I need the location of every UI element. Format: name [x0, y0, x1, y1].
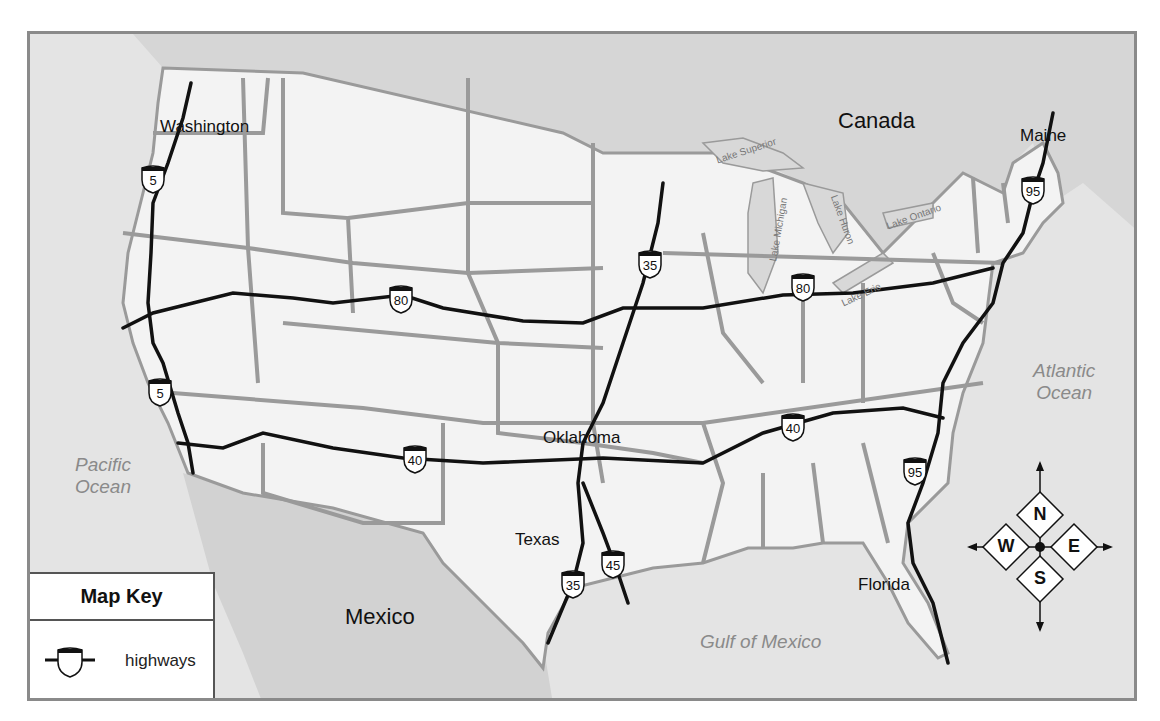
compass-north: N: [1030, 504, 1050, 525]
compass-east: E: [1064, 536, 1084, 557]
interstate-shield-icon: [45, 646, 95, 680]
compass-west: W: [996, 536, 1016, 557]
compass-south: S: [1030, 568, 1050, 589]
shield-number: 40: [402, 453, 428, 468]
map-key-label: highways: [125, 651, 196, 671]
interstate-80-shield-west: 80: [388, 284, 414, 314]
pacific-line2: Ocean: [75, 476, 131, 498]
interstate-95-shield-south: 95: [902, 456, 928, 486]
compass-rose: N S W E: [965, 459, 1115, 634]
state-label-washington: Washington: [160, 117, 249, 137]
atlantic-line1: Atlantic: [1033, 360, 1095, 382]
interstate-45-shield: 45: [600, 549, 626, 579]
interstate-40-shield-east: 40: [780, 412, 806, 442]
interstate-5-shield-south: 5: [147, 377, 173, 407]
shield-number: 5: [140, 173, 166, 188]
shield-number: 80: [790, 281, 816, 296]
state-label-oklahoma: Oklahoma: [543, 428, 620, 448]
state-label-maine: Maine: [1020, 126, 1066, 146]
map-key-item-highways: highways: [30, 621, 213, 701]
compass-icon: [965, 459, 1115, 634]
interstate-40-shield-west: 40: [402, 444, 428, 474]
us-highway-map: Canada Mexico Washington Maine Oklahoma …: [27, 31, 1137, 701]
shield-number: 40: [780, 421, 806, 436]
shield-number: 5: [147, 386, 173, 401]
shield-number: 35: [560, 578, 586, 593]
water-label-pacific: Pacific Ocean: [75, 454, 131, 498]
country-label-mexico: Mexico: [345, 604, 415, 630]
state-label-florida: Florida: [858, 575, 910, 595]
interstate-5-shield-north: 5: [140, 164, 166, 194]
map-key-title: Map Key: [30, 574, 213, 621]
country-label-canada: Canada: [838, 108, 915, 134]
shield-number: 95: [902, 465, 928, 480]
shield-number: 95: [1020, 184, 1046, 199]
pacific-line1: Pacific: [75, 454, 131, 476]
water-label-gulf-of-mexico: Gulf of Mexico: [700, 631, 821, 653]
shield-number: 80: [388, 293, 414, 308]
interstate-35-shield-north: 35: [637, 249, 663, 279]
shield-number: 35: [637, 258, 663, 273]
map-key: Map Key highways: [30, 572, 215, 701]
shield-number: 45: [600, 558, 626, 573]
atlantic-line2: Ocean: [1033, 382, 1095, 404]
interstate-80-shield-east: 80: [790, 272, 816, 302]
water-label-atlantic: Atlantic Ocean: [1033, 360, 1095, 404]
interstate-95-shield-north: 95: [1020, 175, 1046, 205]
state-label-texas: Texas: [515, 530, 559, 550]
interstate-35-shield-south: 35: [560, 569, 586, 599]
